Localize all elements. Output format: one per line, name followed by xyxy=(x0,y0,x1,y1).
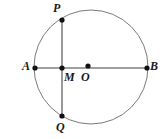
point-label-o: O xyxy=(81,71,90,83)
point-label-m: M xyxy=(64,71,75,83)
circle-shape xyxy=(34,10,148,124)
point-label-p: P xyxy=(53,2,60,14)
geometry-figure: P A M O B Q xyxy=(0,0,167,139)
point-q-dot xyxy=(59,113,64,118)
point-label-b: B xyxy=(150,60,158,72)
point-p-dot xyxy=(59,17,64,22)
point-label-a: A xyxy=(22,60,30,72)
point-b-dot xyxy=(144,65,149,70)
point-a-dot xyxy=(32,65,37,70)
point-o-dot xyxy=(85,63,90,68)
point-label-q: Q xyxy=(56,121,65,133)
